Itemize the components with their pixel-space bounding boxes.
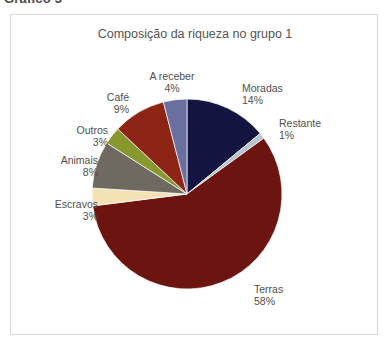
pie-label-restante-percent: 1% [279, 130, 321, 142]
pie-label-moradas-name: Moradas [242, 82, 283, 94]
pie-label-cafe: Café 9% [71, 92, 129, 115]
pie-label-a-receber-name: A receber [150, 70, 195, 82]
pie-label-escravos-name: Escravos [55, 198, 98, 210]
pie-label-cafe-name: Café [107, 91, 129, 103]
pie-label-animais-percent: 8% [31, 167, 98, 179]
pie-label-restante-name: Restante [279, 117, 321, 129]
pie-slice-group [92, 99, 282, 289]
pie-label-moradas-percent: 14% [242, 95, 283, 107]
pie-label-a-receber-percent: 4% [137, 83, 207, 95]
pie-label-terras: Terras 58% [254, 284, 283, 307]
pie-label-outros: Outros 3% [44, 125, 108, 148]
pie-label-moradas: Moradas 14% [242, 83, 283, 106]
figure-caption: Gráfico 3 [4, 0, 62, 6]
pie-label-outros-name: Outros [76, 124, 108, 136]
pie-label-animais: Animais 8% [31, 155, 98, 178]
chart-frame: Composição da riqueza no grupo 1 Moradas… [10, 14, 378, 335]
pie-label-cafe-percent: 9% [71, 104, 129, 116]
pie-label-terras-name: Terras [254, 283, 283, 295]
pie-label-a-receber: A receber 4% [137, 71, 207, 94]
pie-label-restante: Restante 1% [279, 118, 321, 141]
pie-label-animais-name: Animais [61, 154, 98, 166]
pie-label-escravos: Escravos 3% [26, 199, 98, 222]
pie-label-outros-percent: 3% [44, 137, 108, 149]
pie-chart: Moradas 14% Restante 1% Terras 58% Escra… [11, 15, 379, 336]
pie-label-escravos-percent: 3% [26, 211, 98, 223]
pie-label-terras-percent: 58% [254, 296, 283, 308]
